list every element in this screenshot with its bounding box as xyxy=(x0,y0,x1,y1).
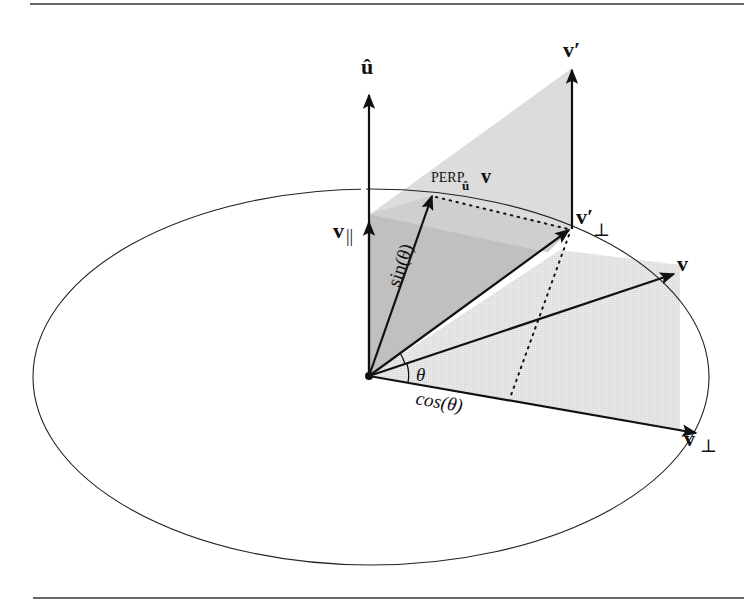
label-v-prime-perp-sub: ⊥ xyxy=(593,220,610,240)
label-v-prime: v′ xyxy=(563,37,580,62)
label-v-parallel-sub: || xyxy=(346,226,353,246)
label-perp-v: v xyxy=(481,165,491,187)
label-perp-sub: û xyxy=(462,178,469,193)
label-theta: θ xyxy=(416,364,425,385)
origin-point xyxy=(365,372,373,380)
ellipse-gap xyxy=(361,185,366,193)
rotation-diagram: û v′ v || PERP û v v′ ⊥ v v ⊥ sin(θ) cos… xyxy=(0,0,744,603)
label-v-perp: v xyxy=(684,426,695,451)
label-v-perp-sub: ⊥ xyxy=(700,436,717,456)
label-v: v xyxy=(677,251,688,276)
label-perp: PERP xyxy=(431,170,465,185)
label-v-parallel: v xyxy=(333,218,344,243)
label-v-prime-perp: v′ xyxy=(576,204,593,229)
label-u-hat: û xyxy=(361,54,373,79)
